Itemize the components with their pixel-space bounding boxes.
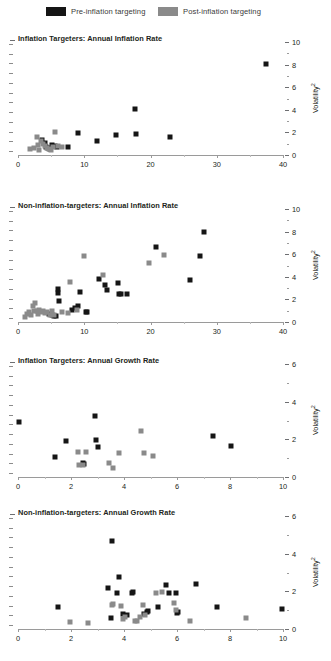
chart-panel-non-targeters-growth: Non-inflation-targeters: Annual Growth R…: [0, 504, 331, 659]
title-dash: [10, 40, 15, 41]
data-point: [101, 272, 106, 277]
data-point: [82, 253, 87, 258]
left-minor-tick: [9, 318, 13, 319]
x-axis-minor-tick: [151, 477, 152, 479]
y-axis-label: 8: [292, 60, 296, 69]
data-point: [116, 450, 121, 455]
left-minor-tick: [9, 625, 13, 626]
y-axis-label: 2: [292, 587, 296, 596]
data-point: [75, 449, 80, 454]
x-axis-tick: [18, 155, 19, 158]
y-axis-label: 6: [292, 83, 296, 92]
x-axis-tick: [71, 629, 72, 632]
x-axis-label: 10: [279, 482, 287, 491]
data-point: [279, 607, 284, 612]
y-axis-tick: [285, 209, 289, 210]
x-axis-tick: [84, 155, 85, 158]
left-minor-tick: [9, 269, 13, 270]
x-axis-label: 30: [213, 160, 221, 169]
y-axis-minor-tick: [287, 288, 289, 289]
x-axis-label: 8: [228, 634, 232, 643]
legend-item-post: Post-inflation targeting: [158, 7, 261, 16]
panel-title: Inflation Targeters: Annual Inflation Ra…: [18, 34, 162, 43]
left-minor-tick: [9, 528, 13, 529]
x-axis-minor-tick: [117, 322, 118, 324]
y-axis-label: 6: [292, 512, 296, 521]
panel-title: Non-inflation-targeters: Annual Growth R…: [18, 508, 175, 517]
left-minor-tick: [9, 385, 13, 386]
x-axis-minor-tick: [98, 477, 99, 479]
x-axis-tick: [177, 477, 178, 480]
y-axis-label: 6: [292, 360, 296, 369]
x-axis-minor-tick: [117, 155, 118, 157]
left-minor-tick: [9, 366, 13, 367]
left-minor-tick: [9, 230, 13, 231]
x-axis-label: 40: [279, 327, 287, 336]
left-minor-tick: [9, 93, 13, 94]
left-minor-tick: [9, 211, 13, 212]
x-axis-tick: [177, 629, 178, 632]
data-point: [114, 133, 119, 138]
data-point: [154, 245, 159, 250]
data-point: [33, 300, 38, 305]
y-axis-label: 4: [292, 272, 296, 281]
data-point: [229, 443, 234, 448]
y-axis-tick: [285, 42, 289, 43]
x-axis-label: 8: [228, 482, 232, 491]
y-axis-tick: [285, 110, 289, 111]
data-point: [156, 605, 161, 610]
data-point: [161, 253, 166, 258]
data-point: [214, 605, 219, 610]
x-axis-tick: [18, 629, 19, 632]
data-point: [172, 600, 177, 605]
data-point: [151, 454, 156, 459]
x-axis-label: 10: [279, 634, 287, 643]
x-axis-tick: [124, 477, 125, 480]
data-point: [264, 62, 269, 67]
left-minor-tick: [9, 567, 13, 568]
x-axis-label: 6: [175, 634, 179, 643]
x-axis-minor-tick: [98, 629, 99, 631]
left-minor-tick: [9, 586, 13, 587]
left-minor-tick: [9, 289, 13, 290]
x-axis-label: 0: [16, 327, 20, 336]
x-axis-tick: [84, 322, 85, 325]
y-axis-tick: [285, 65, 289, 66]
left-minor-tick: [9, 615, 13, 616]
data-point: [141, 451, 146, 456]
legend-label-post: Post-inflation targeting: [183, 7, 261, 16]
data-point: [76, 130, 81, 135]
y-axis-tick: [285, 254, 289, 255]
y-axis-minor-tick: [287, 99, 289, 100]
data-point: [160, 590, 165, 595]
data-point: [243, 615, 248, 620]
y-axis-tick: [285, 155, 289, 156]
x-axis-label: 20: [146, 327, 154, 336]
y-axis-minor-tick: [287, 53, 289, 54]
data-point: [37, 147, 42, 152]
x-axis-tick: [18, 477, 19, 480]
x-axis-minor-tick: [184, 155, 185, 157]
panel-title: Non-inflation-targeters: Annual Inflatio…: [18, 201, 178, 210]
data-point: [108, 615, 113, 620]
y-axis-minor-tick: [287, 311, 289, 312]
left-minor-tick: [9, 424, 13, 425]
x-axis-label: 6: [175, 482, 179, 491]
left-minor-tick: [9, 405, 13, 406]
data-point: [193, 581, 198, 586]
y-axis-tick: [285, 87, 289, 88]
data-point: [105, 287, 110, 292]
y-axis-tick: [285, 439, 289, 440]
data-point: [143, 613, 148, 618]
y-axis-tick: [285, 402, 289, 403]
y-axis-title: Volatility2: [310, 83, 320, 113]
x-axis-minor-tick: [51, 322, 52, 324]
y-axis-tick: [285, 477, 289, 478]
left-minor-tick: [9, 240, 13, 241]
y-axis-minor-tick: [287, 220, 289, 221]
data-point: [116, 281, 121, 286]
y-axis-title: Volatility2: [310, 250, 320, 280]
x-axis-label: 0: [16, 160, 20, 169]
data-point: [16, 420, 21, 425]
y-axis-minor-tick: [287, 76, 289, 77]
